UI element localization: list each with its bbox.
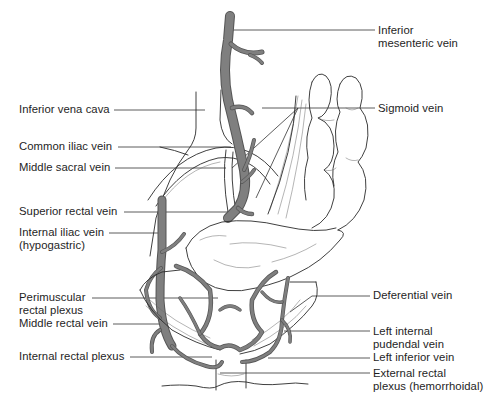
- label-internal-iliac-vein: Internal iliac vein (hypogastric): [19, 226, 104, 252]
- internal-iliac-vein-drawing: [146, 200, 184, 352]
- label-sigmoid-vein: Sigmoid vein: [378, 102, 443, 115]
- label-left-internal-pudendal-vein: Left internal pudendal vein: [373, 325, 444, 351]
- label-middle-sacral-vein: Middle sacral vein: [19, 161, 110, 174]
- label-common-iliac-vein: Common iliac vein: [19, 140, 112, 153]
- inferior-mesenteric-vein-drawing: [225, 16, 262, 218]
- label-middle-rectal-vein: Middle rectal vein: [19, 317, 108, 330]
- label-inferior-vena-cava: Inferior vena cava: [19, 103, 110, 116]
- label-superior-rectal-vein: Superior rectal vein: [19, 205, 117, 218]
- label-left-inferior-vein: Left inferior vein: [373, 351, 454, 364]
- label-internal-rectal-plexus: Internal rectal plexus: [19, 350, 124, 363]
- label-inferior-mesenteric-vein: Inferior mesenteric vein: [378, 24, 458, 50]
- common-iliac-arch: [148, 147, 278, 212]
- leader-lines: [92, 30, 375, 373]
- label-perimuscular-rectal-plexus: Perimuscular rectal plexus: [19, 291, 86, 317]
- sigmoid-colon-drawing: [268, 74, 368, 230]
- label-external-rectal-plexus: External rectal plexus (hemorrhoidal): [373, 367, 483, 393]
- label-deferential-vein: Deferential vein: [373, 289, 452, 302]
- rectal-venous-plexus-drawing: [172, 266, 290, 367]
